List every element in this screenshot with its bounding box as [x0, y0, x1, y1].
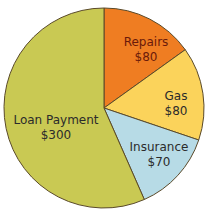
- label-gas: Gas $80: [165, 89, 188, 119]
- label-repairs-name: Repairs: [124, 35, 169, 50]
- label-loan-name: Loan Payment: [13, 113, 98, 128]
- label-loan-value: $300: [13, 128, 98, 143]
- label-repairs: Repairs $80: [124, 35, 169, 65]
- label-gas-value: $80: [165, 104, 188, 119]
- label-loan-payment: Loan Payment $300: [13, 113, 98, 143]
- label-repairs-value: $80: [124, 50, 169, 65]
- label-insurance-value: $70: [130, 155, 189, 170]
- label-gas-name: Gas: [165, 89, 188, 104]
- label-insurance: Insurance $70: [130, 140, 189, 170]
- label-insurance-name: Insurance: [130, 140, 189, 155]
